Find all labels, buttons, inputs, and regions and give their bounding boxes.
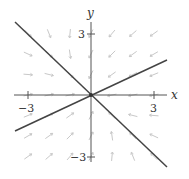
origin-point: [89, 93, 93, 97]
x-axis-label: x: [171, 88, 178, 102]
y-tick-label-neg3: −3: [70, 151, 86, 164]
x-tick-label-neg3: −3: [18, 102, 34, 115]
y-tick-label-3: 3: [78, 28, 85, 41]
phase-portrait: y x 3 −3 −3 3: [0, 0, 189, 179]
y-axis-label: y: [86, 6, 94, 20]
x-tick-label-3: 3: [150, 102, 157, 115]
